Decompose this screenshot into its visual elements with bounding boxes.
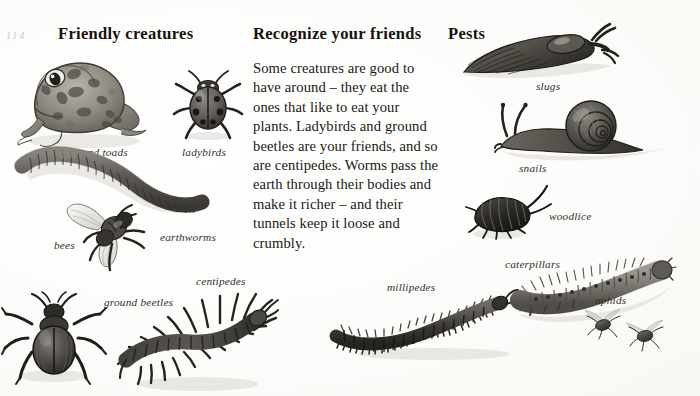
caption-bees: bees (54, 239, 75, 251)
ladybird-illustration (172, 68, 244, 142)
caption-aphids: aphids (595, 294, 626, 306)
slug-illustration (462, 22, 622, 82)
millipede-illustration (330, 290, 530, 364)
caption-centipedes: centipedes (196, 275, 246, 287)
heading-friendly-creatures: Friendly creatures (58, 24, 193, 44)
body-paragraph: Some creatures are good to have around –… (253, 59, 439, 253)
caption-snails: snails (519, 162, 547, 174)
ground-beetle-illustration (2, 292, 110, 388)
caption-ground-beetles: ground beetles (104, 296, 173, 308)
woodlouse-illustration (465, 186, 555, 244)
heading-recognize-your-friends: Recognize your friends (253, 24, 422, 44)
caption-caterpillars: caterpillars (505, 258, 560, 270)
snail-illustration (495, 100, 665, 162)
book-page: 114 Friendly creatures Recognize your fr… (0, 0, 700, 396)
caption-frogs-and-toads: frogs and toads (55, 146, 128, 158)
caption-slugs: slugs (536, 80, 560, 92)
page-folio-number: 114 (6, 30, 26, 41)
heading-pests: Pests (448, 24, 485, 44)
caption-ladybirds: ladybirds (182, 146, 226, 158)
caption-woodlice: woodlice (549, 210, 591, 222)
frog-illustration (18, 38, 153, 150)
aphid-illustration (584, 308, 680, 354)
caption-earthworms: earthworms (160, 231, 216, 243)
caption-millipedes: millipedes (387, 281, 435, 293)
